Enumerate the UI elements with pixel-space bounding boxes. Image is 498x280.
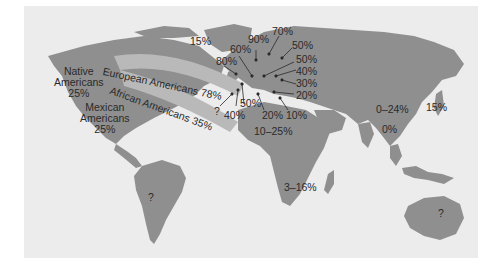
india-shape [358, 122, 374, 148]
southern-africa-label: 3–16% [284, 182, 317, 193]
middle-east-north-africa-label: 10–25% [254, 126, 293, 137]
south-america-shape [134, 160, 186, 244]
europe-label-30: 30% [296, 78, 317, 89]
europe-label-50b: 50% [296, 54, 317, 65]
europe-label-70: 70% [272, 26, 293, 37]
japan-label: 15% [426, 102, 447, 113]
europe-label-20a: 20% [296, 90, 317, 101]
native-americans-label: Native Americans 25% [54, 66, 104, 99]
europe-label-10: 10% [286, 110, 307, 121]
europe-label-40a: 40% [296, 66, 317, 77]
world-map: 15% Native Americans 25% Mexican America… [24, 6, 478, 258]
europe-label-20b: 20% [262, 110, 283, 121]
central-america-shape [114, 144, 142, 168]
greenland-label: 15% [190, 36, 211, 47]
madagascar-shape [324, 170, 334, 194]
europe-label-60: 60% [230, 44, 251, 55]
indonesia-shape [402, 166, 454, 184]
mexican-americans-label: Mexican Americans 25% [80, 102, 130, 135]
europe-label-90: 90% [248, 34, 269, 45]
europe-label-question: ? [214, 106, 220, 117]
europe-label-50c: 50% [240, 98, 261, 109]
europe-label-50a: 50% [292, 40, 313, 51]
europe-label-40b: 40% [224, 110, 245, 121]
europe-label-80: 80% [216, 56, 237, 67]
australia-label: ? [438, 208, 444, 219]
australia-shape [404, 196, 464, 240]
se-asia-shape [390, 144, 402, 166]
southeast-asia-label: 0% [382, 124, 397, 135]
south-america-label: ? [148, 192, 154, 203]
east-asia-label: 0–24% [376, 104, 409, 115]
